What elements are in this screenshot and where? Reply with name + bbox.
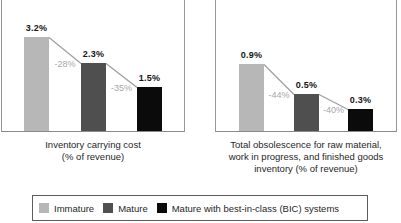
bar-value-label: 0.3% xyxy=(336,95,386,105)
caption-line: (% of revenue) xyxy=(1,151,185,163)
caption-line: Inventory carrying cost xyxy=(1,139,185,151)
legend-label: Mature xyxy=(118,203,148,214)
chart-total-obsolescence: 0.9%0.5%0.3%-44%-40% xyxy=(215,0,397,132)
legend-label: Mature with best-in-class (BIC) systems xyxy=(172,203,339,214)
legend-item: Mature with best-in-class (BIC) systems xyxy=(157,203,339,214)
chart-caption-left: Inventory carrying cost(% of revenue) xyxy=(1,139,185,163)
chart-inventory-carrying-cost: 3.2%2.3%1.5%-28%-35% xyxy=(1,0,185,132)
bar-value-label: 1.5% xyxy=(125,73,175,83)
legend-label: Immature xyxy=(54,203,94,214)
legend-item: Immature xyxy=(39,203,94,214)
bar-mature-0 xyxy=(137,87,162,131)
legend-swatch-icon xyxy=(157,203,167,213)
figure: 3.2%2.3%1.5%-28%-35% 0.9%0.5%0.3%-44%-40… xyxy=(0,0,401,223)
delta-label: -40% xyxy=(312,105,356,115)
caption-line: Total obsolescence for raw material, xyxy=(215,139,397,151)
legend-swatch-icon xyxy=(103,203,113,213)
delta-label: -44% xyxy=(257,90,301,100)
legend-swatch-icon xyxy=(39,203,49,213)
bar-value-label: 0.5% xyxy=(282,80,332,90)
bar-mature-0 xyxy=(81,63,106,131)
bar-value-label: 2.3% xyxy=(69,49,119,59)
delta-label: -35% xyxy=(100,83,144,93)
legend-item: Mature xyxy=(103,203,148,214)
chart-caption-right: Total obsolescence for raw material,work… xyxy=(215,139,397,175)
legend: ImmatureMatureMature with best-in-class … xyxy=(32,195,368,221)
caption-line: inventory (% of revenue) xyxy=(215,163,397,175)
bar-value-label: 0.9% xyxy=(227,50,277,60)
bar-value-label: 3.2% xyxy=(12,23,62,33)
delta-label: -28% xyxy=(43,59,87,69)
caption-line: work in progress, and finished goods xyxy=(215,151,397,163)
bar-immature-0 xyxy=(24,37,49,131)
